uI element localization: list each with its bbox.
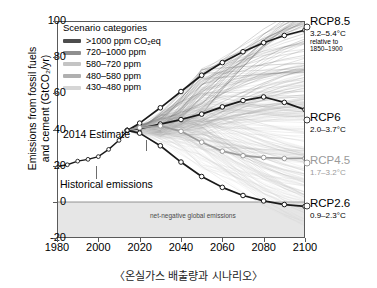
y-tick-40: 40 [20,123,66,135]
y-axis-label: Emissions from fossil fuels and cement (… [26,9,51,209]
rcp-label-rcp45: RCP4.5 1.7–3.2°C [310,155,350,177]
legend-title: Scenario categories [63,22,161,33]
y-tick-20: 20 [20,159,66,171]
rcp85-temp: 3.2–5.4°C [310,29,350,38]
legend-swatch-2 [63,62,81,66]
rcp-marker [158,106,163,111]
y-axis-label-line1: Emissions from fossil fuels [26,47,38,171]
x-tick-2100: 2100 [283,241,327,253]
legend-label-1: 720–1000 ppm [86,47,146,58]
rcp-marker [220,105,225,110]
rcp85-anchor-dot [304,24,311,31]
y-tick-0: 0 [20,195,66,207]
legend-item-3: 480–580 ppm [63,70,161,82]
rcp-marker [199,174,204,179]
rcp-marker [179,117,184,122]
rcp-marker [137,121,142,126]
historical-marker [96,155,100,159]
y-axis-label-line2: and cement (GtCO₂/yr) [38,55,50,162]
y-tick-100: 100 [20,14,66,26]
legend-item-4: 430–480 ppm [63,82,161,94]
y-tickmark-40 [53,130,57,131]
historical-marker [76,159,80,163]
y-tickmark-20 [53,166,57,167]
historical-marker [86,157,90,161]
rcp-marker [282,100,287,105]
y-tickmark-100 [53,21,57,22]
y-tickmark-0 [53,202,57,203]
x-tick-2000: 2000 [76,241,120,253]
legend-item-2: 580–720 ppm [63,59,161,71]
legend-label-3: 480–580 ppm [86,71,141,82]
rcp6-anchor-dot [304,117,311,124]
x-tickmark-2060 [222,238,223,242]
x-tick-1980: 1980 [35,241,79,253]
rcp-marker [179,129,184,134]
rcp-marker [179,89,184,94]
rcp-marker [241,193,246,198]
historical-marker [65,163,69,167]
rcp-marker [158,143,163,148]
x-tick-2040: 2040 [159,241,203,253]
rcp-marker [158,124,163,129]
rcp-marker [282,156,287,161]
rcp-marker [199,112,204,117]
rcp-marker [303,107,305,112]
legend-label-0: >1000 ppm CO₂eq [86,36,161,47]
rcp45-name: RCP4.5 [310,154,350,166]
rcp-label-rcp26: RCP2.6 0.9–2.3°C [310,198,350,220]
rcp85-note-line1: relative to [310,38,350,46]
x-tickmark-2020 [140,238,141,242]
chart-figure: Emissions from fossil fuels and cement (… [0,0,377,288]
annotation-historical: Historical emissions [60,178,153,190]
rcp-marker [241,49,246,54]
x-tickmark-2100 [305,238,306,242]
x-tick-2020: 2020 [118,241,162,253]
x-tick-2060: 2060 [200,241,244,253]
x-tickmark-2000 [98,238,99,242]
rcp-marker [261,40,266,45]
x-tick-2080: 2080 [242,241,286,253]
rcp6-name: RCP6 [310,111,341,123]
legend-label-4: 430–480 ppm [86,82,141,93]
leader-2014-estimate [146,140,147,151]
rcp-marker [220,185,225,190]
figure-caption: 〈온실가스 배출량과 시나리오〉 [0,267,377,283]
y-tickmark-60 [53,93,57,94]
rcp-marker [199,140,204,145]
rcp26-name: RCP2.6 [310,197,350,209]
scenario-legend: Scenario categories >1000 ppm CO₂eq720–1… [63,22,161,93]
x-tickmark-2040 [181,238,182,242]
x-tickmark-1980 [57,238,58,242]
rcp85-name: RCP8.5 [310,15,350,27]
rcp6-temp: 2.0–3.7°C [310,125,346,134]
y-tick-60: 60 [20,86,66,98]
annotation-2014-estimate: 2014 Estimate [63,128,130,140]
rcp45-anchor-dot [304,160,311,167]
rcp-marker [179,160,184,165]
rcp-marker [199,73,204,78]
rcp-marker [241,98,246,103]
rcp-marker [241,153,246,158]
rcp26-anchor-dot [304,203,311,210]
historical-marker [107,147,111,151]
rcp-label-rcp85: RCP8.5 3.2–5.4°C relative to 1850–1900 [310,16,350,53]
rcp85-note-line2: 1850–1900 [310,45,350,53]
legend-item-0: >1000 ppm CO₂eq [63,36,161,48]
rcp-marker [137,125,142,130]
y-tick-80: 80 [20,50,66,62]
legend-swatch-3 [63,74,81,78]
rcp-marker [137,131,142,136]
rcp26-temp: 0.9–2.3°C [310,211,350,220]
rcp-marker [261,95,266,100]
rcp-marker [261,155,266,160]
legend-item-1: 720–1000 ppm [63,47,161,59]
rcp-marker [282,33,287,38]
rcp-marker [220,149,225,154]
rcp-label-rcp6: RCP6 2.0–3.7°C [310,112,346,134]
rcp-marker [282,202,287,207]
x-tickmark-2080 [264,238,265,242]
legend-swatch-0 [63,39,81,43]
rcp-marker [220,60,225,65]
leader-historical [96,166,97,179]
